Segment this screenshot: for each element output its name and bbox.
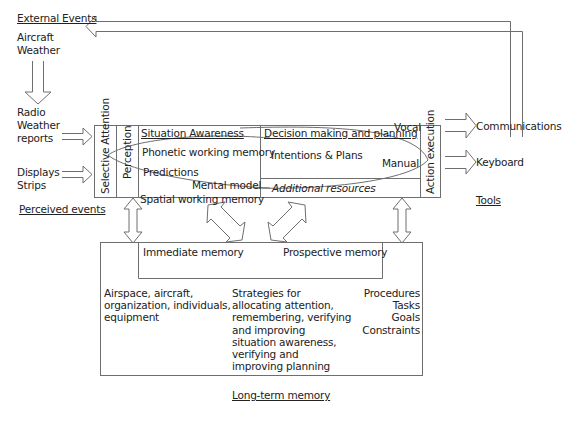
- perceived-events-label: Perceived events: [19, 203, 106, 216]
- perception-label: Perception: [121, 125, 133, 179]
- manual-label: Manual: [382, 157, 419, 170]
- ltm-col2-line5: situation awareness,: [232, 336, 336, 349]
- prospective-memory: Prospective memory: [283, 246, 387, 259]
- ltm-col2-line7: improving planning: [232, 360, 330, 373]
- tools-label: Tools: [476, 194, 501, 207]
- phonetic-working-memory: Phonetic working memory: [142, 146, 275, 159]
- ltm-col2-line6: verifying and: [232, 348, 298, 361]
- ltm-col2-line2: allocating attention,: [232, 299, 334, 312]
- mental-model: Mental model: [192, 179, 261, 192]
- long-term-memory-title: Long-term memory: [232, 389, 330, 402]
- input-weather: Weather: [17, 119, 60, 132]
- spatial-working-memory: Spatial working memory: [140, 193, 264, 206]
- input-radio: Radio: [17, 106, 46, 119]
- vocal-label: Vocal: [394, 121, 421, 134]
- ltm-col3-tasks: Tasks: [340, 299, 420, 312]
- ltm-col3-constraints: Constraints: [340, 324, 420, 337]
- ltm-col3-goals: Goals: [340, 311, 420, 324]
- situation-awareness-title: Situation Awareness: [141, 127, 244, 140]
- input-strips: Strips: [17, 179, 46, 192]
- ltm-col1-line2: organization, individuals,: [104, 299, 231, 312]
- output-keyboard: Keyboard: [476, 156, 524, 169]
- input-displays: Displays: [17, 166, 60, 179]
- input-reports: reports: [17, 132, 53, 145]
- ltm-col1-line3: equipment: [104, 311, 159, 324]
- additional-resources: Additional resources: [272, 182, 376, 195]
- external-events-title: External Events: [17, 12, 96, 25]
- selective-attention-label: Selective Attention: [99, 126, 111, 194]
- immediate-memory: Immediate memory: [143, 246, 244, 259]
- ltm-col1-line1: Airspace, aircraft,: [104, 287, 193, 300]
- external-item-weather: Weather: [17, 44, 60, 57]
- output-communications: Communications: [476, 120, 561, 133]
- ltm-col2-line3: remembering, verifying: [232, 311, 351, 324]
- intentions-plans: Intentions & Plans: [271, 149, 363, 162]
- external-item-aircraft: Aircraft: [17, 31, 54, 44]
- ltm-col2-line1: Strategies for: [232, 287, 301, 300]
- predictions: Predictions: [143, 166, 198, 179]
- action-execution-label: Action execution: [424, 126, 436, 194]
- ltm-col3-procedures: Procedures: [340, 287, 420, 300]
- ltm-col2-line4: and improving: [232, 324, 305, 337]
